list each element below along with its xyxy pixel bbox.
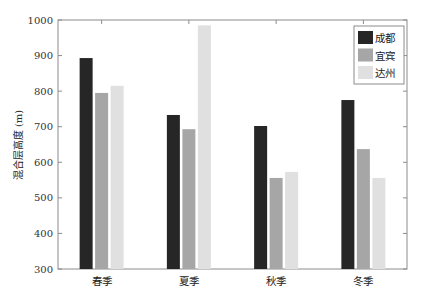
- bar-成都-夏季: [167, 115, 180, 269]
- legend-swatch: [358, 31, 373, 44]
- bar-宜宾-夏季: [182, 129, 195, 269]
- x-tick-label: 春季: [92, 275, 113, 287]
- legend-label: 宜宾: [375, 50, 395, 62]
- bar-达州-夏季: [198, 25, 211, 269]
- bar-成都-秋季: [254, 126, 267, 269]
- bar-宜宾-春季: [95, 93, 108, 269]
- legend-swatch: [358, 49, 373, 62]
- y-tick-label: 900: [34, 50, 53, 61]
- x-tick-label: 夏季: [179, 275, 200, 287]
- y-tick-label: 1000: [28, 15, 53, 26]
- legend-label: 成都: [375, 32, 396, 44]
- x-tick-label: 冬季: [353, 275, 374, 287]
- y-tick-label: 300: [34, 264, 53, 275]
- x-tick-label: 秋季: [266, 275, 287, 287]
- y-tick-label: 500: [34, 192, 53, 203]
- bar-宜宾-冬季: [357, 149, 370, 269]
- bar-成都-春季: [80, 58, 93, 269]
- y-axis-label: 混合层高度 (m): [12, 110, 24, 181]
- y-tick-label: 700: [34, 121, 53, 132]
- legend: 成都宜宾达州: [354, 26, 404, 84]
- y-tick-label: 400: [34, 228, 53, 239]
- y-tick-label: 600: [34, 157, 53, 168]
- bar-chart: 3004005006007008009001000春季夏季秋季冬季 成都宜宾达州…: [0, 0, 421, 303]
- bar-达州-春季: [111, 86, 124, 269]
- bar-成都-冬季: [341, 100, 354, 269]
- y-tick-label: 800: [34, 86, 53, 97]
- legend-swatch: [358, 66, 373, 79]
- bar-达州-秋季: [285, 172, 298, 269]
- legend-label: 达州: [375, 67, 395, 79]
- bar-宜宾-秋季: [270, 178, 283, 269]
- bar-达州-冬季: [372, 178, 385, 269]
